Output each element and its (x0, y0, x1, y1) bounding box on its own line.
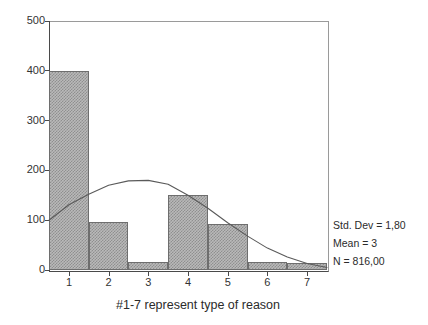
x-tick-label: 4 (176, 276, 200, 288)
x-axis-title: #1-7 represent type of reason (0, 297, 396, 313)
x-tick-label: 2 (97, 276, 121, 288)
mean-label: Mean = 3 (333, 234, 428, 252)
x-tick-label: 7 (295, 276, 319, 288)
histogram-chart: 500 400 300 200 100 0 1 2 (0, 0, 428, 325)
x-tick-label: 3 (136, 276, 160, 288)
std-dev-label: Std. Dev = 1,80 (333, 216, 428, 234)
statistics-annotation: Std. Dev = 1,80 Mean = 3 N = 816,00 (333, 216, 428, 270)
sample-size-label: N = 816,00 (333, 252, 428, 270)
x-tick-label: 1 (57, 276, 81, 288)
x-axis: 1 2 3 4 5 6 7 (0, 0, 428, 325)
x-tick-label: 6 (255, 276, 279, 288)
x-tick-label: 5 (216, 276, 240, 288)
